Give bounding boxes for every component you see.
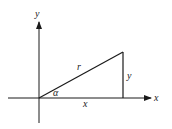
opposite-side-label: y (126, 70, 132, 81)
hypotenuse-label: r (77, 61, 81, 72)
y-axis-label: y (34, 8, 40, 19)
triangle-diagram: y x r y x α (0, 0, 172, 129)
hypotenuse-r (39, 52, 123, 98)
adjacent-side-label: x (82, 98, 88, 109)
x-axis-label: x (153, 92, 159, 103)
angle-alpha-label: α (53, 87, 59, 98)
